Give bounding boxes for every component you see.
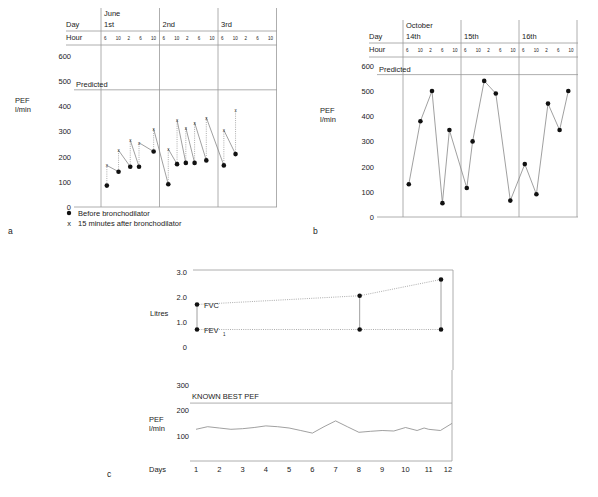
y-tick-label: 3.0 bbox=[177, 268, 187, 277]
trend-line bbox=[119, 150, 131, 166]
legend-x-icon: x bbox=[67, 219, 71, 228]
panel-c-pef-chart: KNOWN BEST PEF100200300PEFl/minDays12345… bbox=[149, 370, 452, 474]
x-tick-label: 10 bbox=[401, 465, 409, 474]
day-label: 1st bbox=[104, 20, 115, 29]
y-axis-label: PEF bbox=[15, 96, 30, 105]
panel-c-letter: c bbox=[107, 469, 112, 479]
data-marker bbox=[439, 277, 444, 282]
before-marker bbox=[128, 164, 133, 169]
y-axis-unit: l/min bbox=[320, 115, 336, 124]
data-marker bbox=[195, 327, 200, 332]
y-tick-label: 2.0 bbox=[177, 293, 187, 302]
x-tick-label: 1 bbox=[194, 465, 198, 474]
hour-tick: 10 bbox=[233, 36, 239, 41]
before-marker bbox=[204, 158, 209, 163]
panel-a-chart: JuneDayHour1st61026102nd61026103rd610261… bbox=[15, 8, 277, 228]
trend-line bbox=[168, 149, 177, 164]
x-tick-label: 9 bbox=[380, 465, 384, 474]
before-marker bbox=[192, 161, 197, 166]
hour-row-label: Hour bbox=[369, 45, 386, 54]
fvc-label: FVC bbox=[204, 301, 220, 310]
before-marker bbox=[137, 164, 142, 169]
y-axis-unit: l/min bbox=[15, 105, 31, 114]
before-marker bbox=[222, 163, 227, 168]
pef-marker bbox=[440, 201, 445, 206]
y-tick-label: 400 bbox=[58, 102, 71, 111]
panel-b-chart: OctoberDayHour14th610261015th610261016th… bbox=[320, 20, 578, 222]
y-tick-label: 1.0 bbox=[177, 318, 187, 327]
hour-tick: 6 bbox=[256, 36, 259, 41]
after-marker: x bbox=[193, 121, 196, 126]
hour-tick: 10 bbox=[476, 48, 482, 53]
trend-line bbox=[224, 130, 236, 154]
hour-tick: 10 bbox=[174, 36, 180, 41]
pef-line bbox=[409, 81, 569, 203]
series-line bbox=[197, 280, 441, 305]
panel-a-letter: a bbox=[8, 226, 13, 236]
hour-tick: 6 bbox=[104, 36, 107, 41]
predicted-label: Predicted bbox=[379, 65, 411, 74]
pef-line bbox=[196, 421, 452, 433]
hour-tick: 10 bbox=[569, 48, 575, 53]
pef-marker bbox=[447, 128, 452, 133]
y-tick-label: 100 bbox=[361, 188, 374, 197]
panel-b-letter: b bbox=[313, 226, 318, 236]
y-axis-label: PEF bbox=[149, 415, 164, 424]
pef-marker bbox=[546, 101, 551, 106]
hour-tick: 2 bbox=[186, 36, 189, 41]
after-marker: x bbox=[129, 138, 132, 143]
before-marker bbox=[166, 182, 171, 187]
y-axis-label: PEF bbox=[320, 106, 335, 115]
hour-tick: 2 bbox=[429, 48, 432, 53]
hour-tick: 2 bbox=[545, 48, 548, 53]
y-tick-label: 0 bbox=[67, 203, 71, 212]
x-tick-label: 2 bbox=[217, 465, 221, 474]
hour-tick: 10 bbox=[268, 36, 274, 41]
x-tick-label: 4 bbox=[264, 465, 268, 474]
x-tick-label: 7 bbox=[334, 465, 338, 474]
hour-tick: 10 bbox=[151, 36, 157, 41]
y-tick-label: 300 bbox=[58, 127, 71, 136]
pef-marker bbox=[508, 198, 513, 203]
pef-marker bbox=[523, 162, 528, 167]
trend-line bbox=[195, 123, 207, 161]
trend-line bbox=[139, 143, 154, 152]
legend-after: 15 minutes after bronchodilator bbox=[78, 219, 182, 228]
hour-tick: 6 bbox=[163, 36, 166, 41]
predicted-label: Predicted bbox=[76, 80, 108, 89]
x-tick-label: 3 bbox=[240, 465, 244, 474]
day-label: 16th bbox=[522, 32, 537, 41]
pef-marker bbox=[534, 192, 539, 197]
day-label: 3rd bbox=[221, 20, 232, 29]
x-tick-label: 6 bbox=[310, 465, 314, 474]
hour-tick: 10 bbox=[511, 48, 517, 53]
pef-marker bbox=[494, 91, 499, 96]
hour-tick: 6 bbox=[221, 36, 224, 41]
y-axis-unit: l/min bbox=[149, 424, 165, 433]
hour-tick: 6 bbox=[499, 48, 502, 53]
y-tick-label: 300 bbox=[361, 137, 374, 146]
before-marker bbox=[184, 161, 189, 166]
legend-dot-icon bbox=[67, 211, 71, 215]
trend-line bbox=[206, 118, 224, 166]
y-tick-label: 500 bbox=[58, 77, 71, 86]
hour-tick: 10 bbox=[418, 48, 424, 53]
hour-row-label: Hour bbox=[66, 33, 83, 42]
pef-marker bbox=[566, 89, 571, 94]
hour-tick: 6 bbox=[441, 48, 444, 53]
day-row-label: Day bbox=[369, 32, 383, 41]
trend-line bbox=[186, 128, 195, 163]
month-label: October bbox=[406, 21, 433, 30]
hour-tick: 6 bbox=[406, 48, 409, 53]
hour-tick: 10 bbox=[453, 48, 459, 53]
month-label: June bbox=[104, 9, 120, 18]
y-tick-label: 600 bbox=[58, 52, 71, 61]
y-tick-label: 200 bbox=[361, 163, 374, 172]
x-tick-label: 8 bbox=[357, 465, 361, 474]
hour-tick: 6 bbox=[522, 48, 525, 53]
hour-tick: 6 bbox=[198, 36, 201, 41]
x-tick-label: 12 bbox=[444, 465, 452, 474]
y-tick-label: 100 bbox=[176, 432, 189, 441]
hour-tick: 6 bbox=[139, 36, 142, 41]
pef-marker bbox=[482, 79, 487, 84]
